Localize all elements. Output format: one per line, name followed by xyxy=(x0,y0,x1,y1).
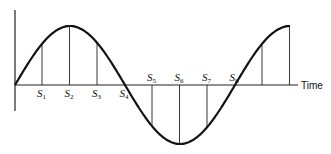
sampling-diagram: Time S1S2S3S4S5S6S7S8 xyxy=(0,0,331,154)
sample-labels: S1S2S3S4S5S6S7S8 xyxy=(37,71,239,101)
sample-label: S8 xyxy=(230,71,240,85)
sample-label: S2 xyxy=(65,87,75,101)
sample-label: S1 xyxy=(37,87,47,101)
sample-label: S7 xyxy=(202,71,212,85)
sample-label: S5 xyxy=(147,71,157,85)
time-axis-label: Time xyxy=(301,80,323,91)
sample-label: S6 xyxy=(175,71,185,85)
sample-label: S3 xyxy=(92,87,102,101)
